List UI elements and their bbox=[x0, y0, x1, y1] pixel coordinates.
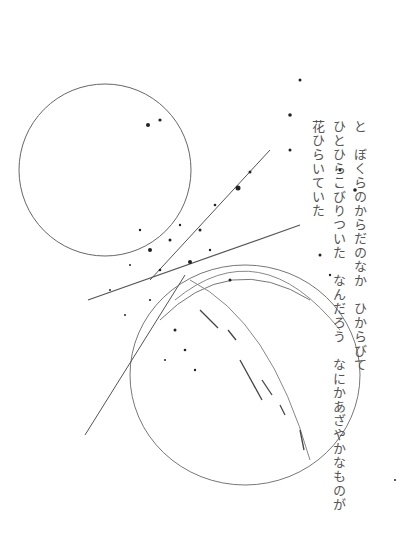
poem-line-1: と ぼくらのからだのなか ひからびて bbox=[353, 120, 366, 512]
upper-circle bbox=[19, 84, 191, 256]
poem-line-2: ひとひらこびりついた なんだろう なにかあざやかなものが bbox=[332, 120, 345, 512]
diagonal-line-3 bbox=[85, 275, 185, 435]
dash-marks bbox=[200, 310, 304, 450]
diagonal-line-1 bbox=[88, 225, 300, 300]
diagonal-line-2 bbox=[150, 150, 270, 280]
vertical-poem: と ぼくらのからだのなか ひからびて ひとひらこびりついた なんだろう なにかあ… bbox=[311, 120, 366, 512]
poem-line-3: 花ひらいていた bbox=[311, 120, 324, 512]
arc-3 bbox=[190, 280, 310, 460]
